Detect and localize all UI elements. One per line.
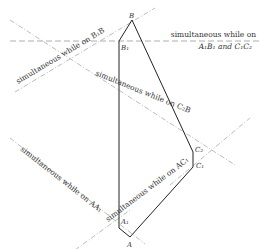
ac1-guide-line bbox=[75, 210, 130, 249]
annotation-aa1: simultaneous while on AA₁ bbox=[19, 144, 104, 214]
annotation-ac1: simultaneous while on AC₁ bbox=[104, 155, 191, 223]
annotation-c2b: simultaneous while on C₂B bbox=[94, 69, 192, 116]
annotation-horizontal-1: simultaneous while on bbox=[171, 30, 256, 39]
annotation-b1b: simultaneous while on B₁B bbox=[14, 25, 106, 85]
point-label-b: B bbox=[128, 12, 134, 20]
diagram-canvas: B B₁ C₂ C₁ A₁ A simultaneous while on A₁… bbox=[0, 0, 259, 249]
point-label-c1: C₁ bbox=[196, 162, 204, 170]
segment-a1-a bbox=[119, 228, 130, 237]
segment-b1-b bbox=[119, 20, 132, 41]
point-label-a: A bbox=[126, 241, 132, 249]
annotation-horizontal-2: A₁B₁ and C₁C₂ bbox=[198, 42, 252, 51]
point-label-c2: C₂ bbox=[195, 146, 203, 154]
point-label-a1: A₁ bbox=[120, 218, 129, 226]
point-label-b1: B₁ bbox=[120, 44, 129, 52]
b1b-guide-line bbox=[15, 8, 155, 92]
